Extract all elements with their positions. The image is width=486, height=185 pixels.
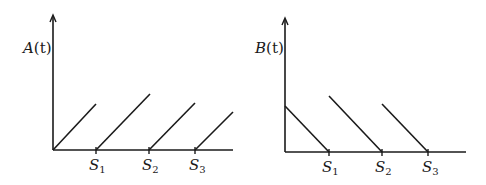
tick-label-s2-a: S2 — [142, 156, 159, 175]
tick-label-s2-b: S2 — [375, 158, 392, 177]
tick-label-s3-b: S3 — [422, 158, 439, 177]
tick-label-s1-b: S1 — [322, 158, 339, 177]
tick-label-s1-a: S1 — [89, 156, 106, 175]
ramps-a — [53, 94, 233, 150]
panel-a: A(t) S1 S2 S3 — [21, 15, 233, 175]
panel-b: B(t) S1 S2 S3 — [254, 18, 466, 177]
tick-label-s3-a: S3 — [189, 156, 206, 175]
ramps-b — [285, 96, 428, 152]
diagram-canvas: A(t) S1 S2 S3 B(t) S1 S2 S3 — [0, 0, 486, 185]
y-axis-label-a: A(t) — [21, 39, 52, 57]
y-axis-label-b: B(t) — [254, 39, 284, 57]
